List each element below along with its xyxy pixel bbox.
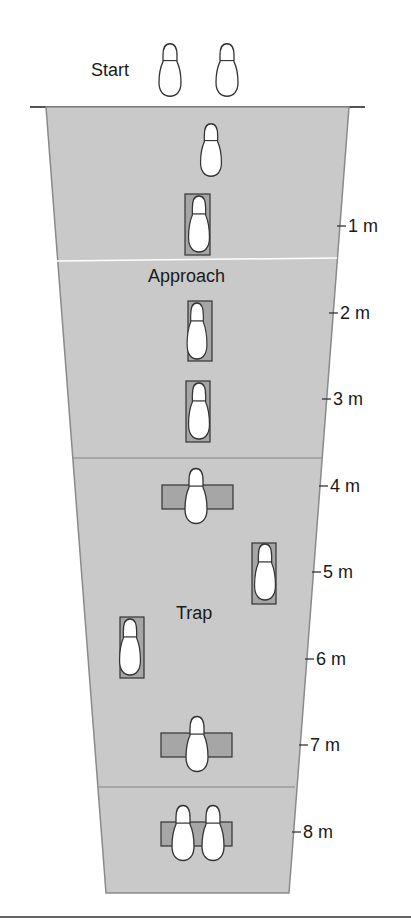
zone-label-approach: Approach	[148, 267, 225, 285]
distance-mark-7m: 7 m	[310, 736, 340, 754]
start-label: Start	[91, 61, 129, 79]
zone-label-trap: Trap	[176, 604, 212, 622]
distance-mark-6m: 6 m	[316, 650, 346, 668]
start-footprint-left	[159, 44, 181, 97]
start-footprint-right	[216, 44, 238, 97]
distance-mark-1m: 1 m	[348, 217, 378, 235]
walkway-diagram	[0, 0, 411, 924]
distance-mark-2m: 2 m	[340, 304, 370, 322]
distance-mark-3m: 3 m	[333, 390, 363, 408]
distance-mark-4m: 4 m	[330, 477, 360, 495]
distance-mark-8m: 8 m	[303, 823, 333, 841]
distance-mark-5m: 5 m	[323, 563, 353, 581]
